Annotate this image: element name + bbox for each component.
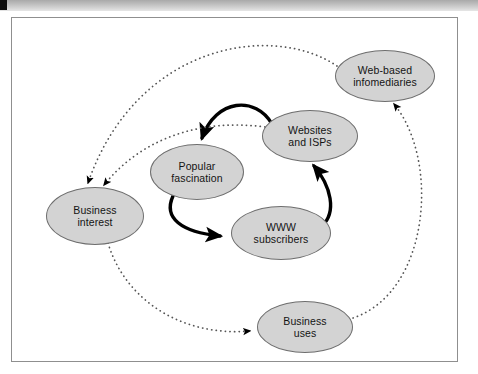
node-business-uses[interactable]: Businessuses <box>257 301 353 353</box>
node-label: Popularfascination <box>163 160 230 185</box>
diagram-page: BusinessinterestPopularfascinationWebsit… <box>0 0 478 374</box>
node-label-line1: Web-based <box>349 64 421 77</box>
node-label: WWWsubscribers <box>246 221 317 246</box>
node-label-line1: WWW <box>250 221 313 234</box>
node-label: Web-basedinfomediaries <box>345 64 425 89</box>
node-business-interest[interactable]: Businessinterest <box>46 187 144 245</box>
node-label: Businessinterest <box>65 204 124 229</box>
node-label-line1: Business <box>69 204 120 217</box>
node-label-line1: Popular <box>167 160 226 173</box>
node-label-line2: infomediaries <box>349 76 421 89</box>
node-label-line2: subscribers <box>250 233 313 246</box>
node-label-line1: Websites <box>284 124 336 137</box>
link-business-interest-to-business-uses <box>108 243 250 332</box>
node-label: Businessuses <box>275 315 334 340</box>
node-label-line1: Business <box>279 315 330 328</box>
node-label-line2: interest <box>69 216 120 229</box>
node-web-based-infomediaries[interactable]: Web-basedinfomediaries <box>335 50 435 102</box>
node-www-subscribers[interactable]: WWWsubscribers <box>231 206 331 260</box>
node-label-line2: and ISPs <box>284 136 336 149</box>
link-business-uses-to-infomediaries <box>353 104 422 318</box>
link-popular-to-www <box>170 196 220 236</box>
node-label-line2: fascination <box>167 172 226 185</box>
node-popular-fascination[interactable]: Popularfascination <box>150 144 244 200</box>
node-label: Websitesand ISPs <box>280 124 340 149</box>
node-label-line2: uses <box>279 327 330 340</box>
node-websites-and-isps[interactable]: Websitesand ISPs <box>262 110 358 162</box>
